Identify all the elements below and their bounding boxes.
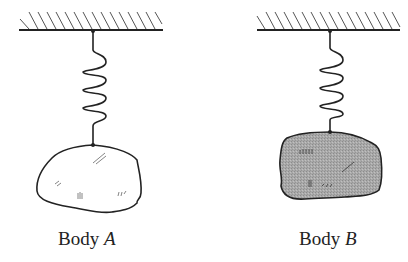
attach-point-body-a: [91, 143, 95, 147]
spring-a: [83, 29, 106, 145]
body-a: [37, 143, 141, 213]
label-body-b: Body B: [299, 228, 357, 250]
ceiling-hatch-a: [20, 12, 162, 29]
label-body-b-letter: B: [345, 228, 357, 249]
label-body-a-letter: A: [104, 228, 116, 249]
body-b: [280, 130, 382, 199]
label-body-b-prefix: Body: [299, 228, 340, 249]
diagram: Body A Body B: [0, 0, 408, 262]
ceiling-hatch-b: [257, 12, 400, 29]
body-b-shape: [280, 132, 382, 199]
diagram-canvas: [0, 0, 408, 262]
label-body-a: Body A: [58, 228, 116, 250]
attach-point-body-b: [328, 130, 332, 134]
label-body-a-prefix: Body: [58, 228, 99, 249]
ceiling-a: [19, 12, 163, 30]
spring-b: [320, 29, 343, 132]
ceiling-b: [257, 12, 400, 30]
body-a-shape: [37, 145, 141, 213]
